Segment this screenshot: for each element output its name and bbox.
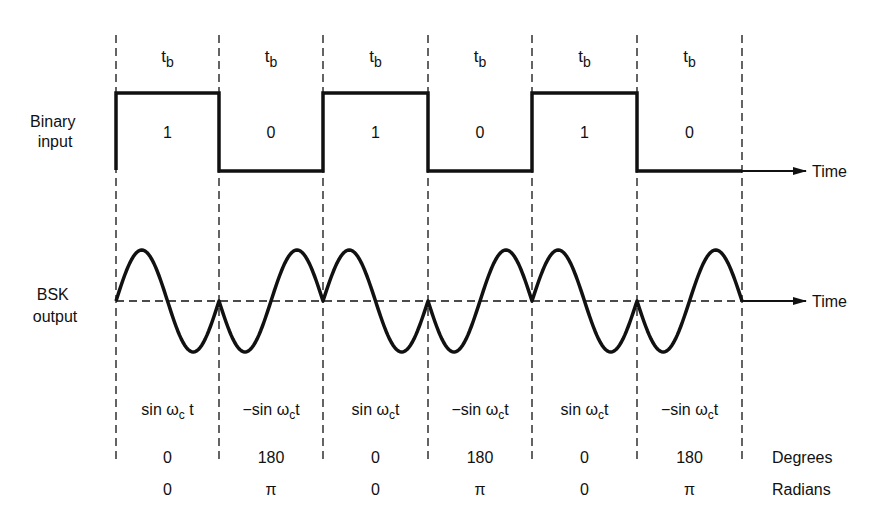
carrier-expression-label: sin ωct	[561, 401, 609, 422]
bit-value-label: 1	[580, 124, 589, 141]
phase-degree-values: 018001800180	[163, 449, 703, 466]
bit-period-label: tb	[369, 47, 382, 70]
carrier-expression-label: sin ωct	[352, 401, 400, 422]
time-label-bottom: Time	[812, 293, 847, 310]
phase-degrees-value: 0	[163, 449, 172, 466]
bpsk-diagram: Binary input BSK output Time Time Degree…	[0, 0, 873, 529]
carrier-expression-label: −sin ωct	[661, 401, 719, 422]
phase-radians-value: 0	[163, 481, 172, 498]
bit-period-label: tb	[161, 47, 174, 70]
degrees-label: Degrees	[772, 449, 832, 466]
carrier-expression-label: −sin ωct	[451, 401, 509, 422]
phase-radians-value: π	[474, 481, 485, 498]
phase-degrees-value: 0	[580, 449, 589, 466]
phase-radians-value: 0	[371, 481, 380, 498]
binary-input-label: Binary input	[30, 113, 80, 150]
bit-period-label: tb	[474, 47, 487, 70]
phase-degrees-value: 180	[676, 449, 703, 466]
phase-radian-values: 0π0π0π	[163, 481, 695, 498]
phase-radians-value: π	[265, 481, 276, 498]
time-label-top: Time	[812, 163, 847, 180]
bit-value-label: 0	[267, 124, 276, 141]
bit-period-label: tb	[683, 47, 696, 70]
bit-value-label: 0	[476, 124, 485, 141]
bit-period-label: tb	[578, 47, 591, 70]
radians-label: Radians	[772, 481, 831, 498]
carrier-expression-label: sin ωc t	[141, 401, 194, 422]
phase-degrees-value: 180	[258, 449, 285, 466]
bit-value-label: 1	[163, 124, 172, 141]
carrier-expression-label: −sin ωct	[242, 401, 300, 422]
bit-period-label: tb	[265, 47, 278, 70]
phase-radians-value: π	[684, 481, 695, 498]
carrier-expression-labels: sin ωc t−sin ωctsin ωct−sin ωctsin ωct−s…	[141, 401, 718, 422]
bit-value-label: 0	[685, 124, 694, 141]
bit-value-label: 1	[371, 124, 380, 141]
phase-radians-value: 0	[580, 481, 589, 498]
phase-degrees-value: 0	[371, 449, 380, 466]
bsk-output-label: BSK output	[33, 286, 78, 325]
binary-input-waveform	[116, 93, 742, 171]
phase-degrees-value: 180	[467, 449, 494, 466]
